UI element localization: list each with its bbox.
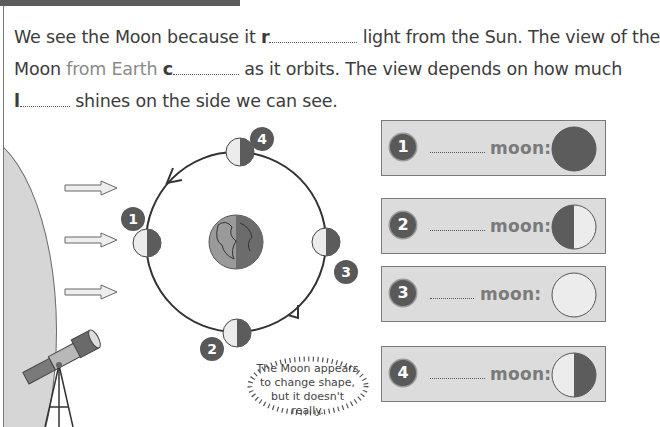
blank-changes[interactable]	[173, 73, 239, 75]
svg-text:3: 3	[341, 264, 351, 280]
half-moon-right-dark-icon	[551, 352, 597, 398]
paragraph-line-2: Moon from Earth c as it orbits. The view…	[14, 59, 622, 79]
telescope-icon	[15, 325, 105, 427]
full-moon-icon	[551, 272, 597, 318]
answer-blank[interactable]	[430, 377, 485, 379]
badge-number: 2	[390, 212, 416, 238]
answer-blank[interactable]	[430, 229, 485, 231]
blank-light[interactable]	[20, 105, 70, 107]
badge-number: 3	[390, 280, 416, 306]
dark-moon-icon	[551, 126, 597, 172]
phase-card-3: 3 moon:	[381, 266, 606, 322]
answer-blank[interactable]	[430, 297, 474, 299]
title-bar	[0, 0, 240, 6]
phase-card-2: 2 moon:	[381, 198, 606, 254]
paragraph-line-1: We see the Moon because it r light from …	[14, 27, 660, 47]
moon-position-2: 2	[200, 319, 251, 361]
note-text: The Moon appears to change shape, but it…	[255, 362, 360, 418]
svg-text:1: 1	[128, 211, 138, 227]
half-moon-left-dark-icon	[551, 204, 597, 250]
earth-icon	[209, 215, 263, 269]
phase-card-4: 4 moon:	[381, 346, 606, 402]
badge-number: 1	[390, 134, 416, 160]
paragraph-line-3: l shines on the side we can see.	[14, 91, 338, 111]
badge-number: 4	[390, 360, 416, 386]
moon-position-1: 1	[121, 207, 161, 257]
blank-reflects[interactable]	[269, 41, 357, 43]
svg-text:4: 4	[257, 131, 267, 147]
answer-blank[interactable]	[430, 151, 485, 153]
orbit-diagram: 4 1 3 2	[110, 115, 360, 365]
phase-card-1: 1 moon:	[381, 120, 606, 176]
moon-position-4: 4	[226, 127, 274, 166]
svg-text:2: 2	[207, 341, 217, 357]
